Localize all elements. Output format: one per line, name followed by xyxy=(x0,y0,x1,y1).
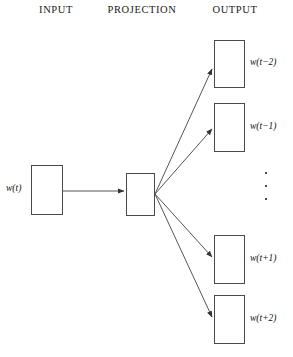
column-header-output: OUTPUT xyxy=(190,4,280,15)
output-node-label: w(t+2) xyxy=(250,313,276,323)
output-node-box xyxy=(214,103,245,152)
ellipsis-dot xyxy=(265,172,267,174)
vertical-ellipsis-icon xyxy=(260,172,272,200)
skipgram-architecture-diagram: INPUT PROJECTION OUTPUT w(t) w(t−2) w(t−… xyxy=(0,0,293,357)
edge-projection-to-output-0 xyxy=(155,69,212,194)
output-node-box xyxy=(214,40,245,88)
output-node-label: w(t−1) xyxy=(250,121,276,131)
output-node-label-text: w(t+2) xyxy=(250,313,276,323)
edge-projection-to-output-2 xyxy=(155,194,212,257)
output-node-label-text: w(t−1) xyxy=(250,121,276,131)
ellipsis-dot xyxy=(265,185,267,187)
output-node-label: w(t−2) xyxy=(250,57,276,67)
input-node-box xyxy=(31,165,63,215)
edge-projection-to-output-3 xyxy=(155,194,212,317)
input-node-label-text: w(t) xyxy=(6,183,21,193)
output-node-label-text: w(t+1) xyxy=(250,253,276,263)
output-node-label: w(t+1) xyxy=(250,253,276,263)
projection-node-box xyxy=(126,173,155,216)
ellipsis-dot xyxy=(265,198,267,200)
edge-projection-to-output-1 xyxy=(155,129,212,194)
column-header-projection: PROJECTION xyxy=(98,4,186,15)
output-node-box xyxy=(214,295,245,344)
output-node-box xyxy=(214,235,245,284)
input-node-label: w(t) xyxy=(6,183,21,193)
output-node-label-text: w(t−2) xyxy=(250,57,276,67)
column-header-input: INPUT xyxy=(16,4,96,15)
